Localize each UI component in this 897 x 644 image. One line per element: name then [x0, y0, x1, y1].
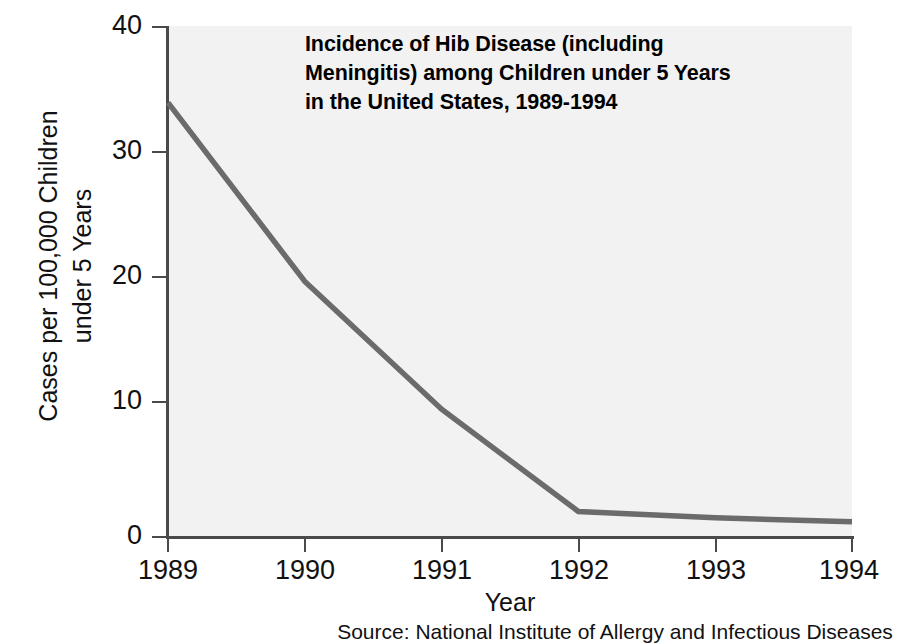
- x-tick-1990: [304, 538, 306, 552]
- y-axis-label: Cases per 100,000 Children under 5 Years: [31, 51, 99, 481]
- x-tick-label-1992: 1992: [549, 556, 609, 584]
- x-tick-label-1989: 1989: [138, 556, 198, 584]
- y-tick-40: [152, 26, 166, 28]
- y-tick-label-40: 40: [100, 12, 142, 39]
- y-axis-label-line-1: Cases per 100,000 Children: [31, 51, 65, 481]
- y-tick-10: [152, 401, 166, 403]
- source-note: Source: National Institute of Allergy an…: [0, 620, 897, 644]
- y-axis-line: [166, 26, 169, 539]
- y-tick-0: [152, 536, 166, 538]
- y-tick-label-0: 0: [100, 522, 142, 549]
- x-tick-1992: [578, 538, 580, 552]
- y-tick-label-20: 20: [100, 262, 142, 289]
- x-axis-line: [166, 536, 854, 539]
- chart-title: Incidence of Hib Disease (including Meni…: [305, 30, 735, 117]
- y-tick-label-10: 10: [100, 387, 142, 414]
- x-tick-label-1994: 1994: [819, 556, 879, 584]
- chart-title-line-1: Incidence of Hib Disease (including: [305, 30, 735, 59]
- y-tick-20: [152, 276, 166, 278]
- x-axis-label: Year: [0, 588, 897, 617]
- chart-title-line-3: in the United States, 1989-1994: [305, 88, 735, 117]
- x-tick-label-1993: 1993: [686, 556, 746, 584]
- x-tick-1994: [851, 538, 853, 552]
- x-tick-1993: [715, 538, 717, 552]
- x-tick-1989: [167, 538, 169, 552]
- x-tick-label-1991: 1991: [412, 556, 472, 584]
- y-tick-label-30: 30: [100, 137, 142, 164]
- x-tick-1991: [441, 538, 443, 552]
- y-axis-label-line-2: under 5 Years: [65, 51, 99, 481]
- chart-title-line-2: Meningitis) among Children under 5 Years: [305, 59, 735, 88]
- x-tick-label-1990: 1990: [275, 556, 335, 584]
- y-tick-30: [152, 151, 166, 153]
